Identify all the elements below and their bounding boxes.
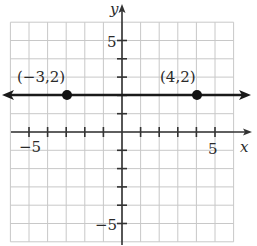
data-line-y-equals-2 xyxy=(2,90,251,100)
y-axis-label: y xyxy=(109,0,119,18)
point-neg3-2 xyxy=(62,90,72,100)
x-axis-label: x xyxy=(240,138,249,156)
x-tick-label-5: 5 xyxy=(208,140,218,158)
point-label-4-2: (4,2) xyxy=(160,68,196,86)
coordinate-plane: (−3,2) (4,2) y x 5 −5 −5 5 xyxy=(0,0,257,246)
y-tick-label-neg5: −5 xyxy=(95,216,117,234)
x-tick-label-neg5: −5 xyxy=(19,138,41,156)
point-4-2 xyxy=(192,90,202,100)
point-label-neg3-2: (−3,2) xyxy=(17,68,65,86)
y-tick-label-5: 5 xyxy=(107,33,117,51)
